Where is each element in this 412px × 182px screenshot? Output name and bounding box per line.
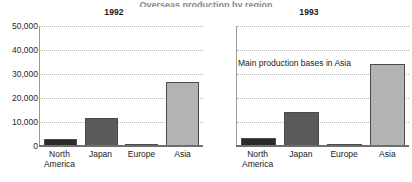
x-label-line1: Europe: [128, 149, 155, 159]
y-tick-label: 30,000: [0, 69, 38, 79]
bar-slot: [81, 26, 122, 146]
chart-panel-1993: 1993 Main production bases in Asia North…: [206, 0, 412, 182]
bar-japan-1993: [284, 112, 319, 146]
x-axis-labels-1993: NorthAmerica Japan Europe Asia: [236, 149, 409, 177]
x-axis-line: [39, 145, 203, 147]
x-axis-labels-1992: NorthAmerica Japan Europe Asia: [39, 149, 203, 177]
x-label-line1: Asia: [174, 149, 191, 159]
x-label-japan: Japan: [80, 149, 121, 177]
x-label-line2: America: [39, 159, 80, 169]
x-label-north-america: NorthAmerica: [236, 149, 279, 177]
x-label-line1: North: [247, 149, 268, 159]
x-label-line1: Japan: [289, 149, 312, 159]
x-label-line2: America: [236, 159, 279, 169]
y-tick-label: 10,000: [0, 117, 38, 127]
y-axis-tick-labels: 50,000 40,000 30,000 20,000 10,000 0: [0, 26, 38, 146]
x-label-europe: Europe: [323, 149, 366, 177]
panel-title-1993: 1993: [206, 7, 412, 17]
bar-group-1993: [237, 26, 409, 146]
x-label-asia: Asia: [366, 149, 409, 177]
bar-slot: [237, 26, 280, 146]
bar-asia-1992: [166, 82, 199, 146]
chart-figure: Overseas production by region 1992 50,00…: [0, 0, 412, 182]
bar-slot: [280, 26, 323, 146]
x-label-line1: Japan: [89, 149, 112, 159]
x-label-line1: Europe: [330, 149, 357, 159]
y-tick-label: 40,000: [0, 45, 38, 55]
chart-annotation: Main production bases in Asia: [238, 58, 351, 68]
plot-area-1993: [237, 26, 409, 146]
bar-slot: [366, 26, 409, 146]
x-label-europe: Europe: [121, 149, 162, 177]
y-tick-label: 0: [0, 141, 38, 151]
plot-area-1992: [40, 26, 203, 146]
bar-slot: [122, 26, 163, 146]
x-label-line1: North: [49, 149, 70, 159]
x-label-asia: Asia: [162, 149, 203, 177]
panel-title-1992: 1992: [0, 7, 206, 17]
bar-asia-1993: [370, 64, 405, 146]
x-label-japan: Japan: [279, 149, 322, 177]
bar-group-1992: [40, 26, 203, 146]
bar-slot: [40, 26, 81, 146]
chart-panel-1992: 1992 50,000 40,000 30,000 20,000 10,000 …: [0, 0, 206, 182]
x-axis-line: [236, 145, 409, 147]
bar-slot: [323, 26, 366, 146]
bar-slot: [162, 26, 203, 146]
x-label-line1: Asia: [379, 149, 396, 159]
bar-japan-1992: [85, 118, 118, 146]
x-label-north-america: NorthAmerica: [39, 149, 80, 177]
y-tick-label: 50,000: [0, 21, 38, 31]
y-tick-label: 20,000: [0, 93, 38, 103]
